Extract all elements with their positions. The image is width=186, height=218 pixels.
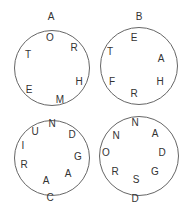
circle-letter: N	[48, 119, 55, 129]
circle-letter: E	[26, 85, 33, 95]
circle-letter: F	[109, 77, 115, 87]
circle-letter: R	[20, 160, 27, 170]
circle-letter: A	[158, 54, 165, 64]
circle-letter: T	[107, 47, 113, 57]
circle-letter: N	[112, 131, 119, 141]
circle-letter: G	[74, 152, 82, 162]
circle-letter: D	[68, 130, 75, 140]
circle-letter: M	[56, 95, 64, 105]
circle-letter: H	[156, 77, 163, 87]
circle-letter: I	[22, 141, 25, 151]
puzzle-label: D	[131, 194, 138, 204]
circle-letter: N	[131, 118, 138, 128]
circle-letter: U	[31, 127, 38, 137]
circle-letter: A	[152, 129, 159, 139]
circle-letter: S	[133, 175, 140, 185]
puzzle-circle-b	[100, 27, 178, 105]
circle-letter: G	[151, 167, 159, 177]
circle-letter: R	[130, 89, 137, 99]
circle-letter: D	[158, 148, 165, 158]
circle-letter: O	[46, 33, 54, 43]
circle-letter: H	[75, 77, 82, 87]
puzzle-label: C	[46, 193, 53, 203]
circle-letter: T	[25, 50, 31, 60]
circle-letter: A	[65, 169, 72, 179]
circle-letter: O	[102, 148, 110, 158]
circle-letter: A	[43, 176, 50, 186]
circle-letter: R	[70, 43, 77, 53]
circle-letter: E	[131, 33, 138, 43]
puzzle-label: B	[136, 12, 143, 22]
puzzle-label: A	[48, 12, 55, 22]
circle-letter: R	[111, 167, 118, 177]
